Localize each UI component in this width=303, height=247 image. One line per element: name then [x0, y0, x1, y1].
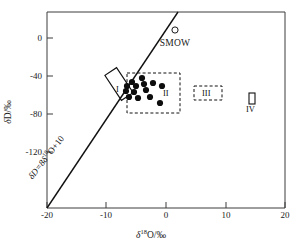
y-tick-label--80: -80 [18, 109, 42, 119]
x-axis-title-rest: O/‰ [147, 230, 166, 240]
isotope-scatter-figure: -20 -10 0 10 20 0 -40 -80 -120 δ18O/‰ δD… [0, 0, 303, 247]
x-tick-label--10: -10 [100, 210, 112, 220]
sample-points [123, 75, 165, 106]
y-axis-title-rest: D/‰ [3, 100, 13, 119]
y-tick-label--40: -40 [18, 71, 42, 81]
x-axis-ticks [47, 202, 285, 208]
region-label-I: I [116, 84, 119, 94]
x-tick-label-20: 20 [281, 210, 290, 220]
y-axis-title-delta: δ [3, 119, 13, 123]
y-axis-title: δD/‰ [3, 100, 13, 123]
x-tick-label-10: 10 [222, 210, 231, 220]
smow-marker [172, 27, 178, 33]
y-tick-label-0: 0 [18, 33, 42, 43]
meteoric-water-line [47, 12, 178, 208]
x-tick-label--20: -20 [41, 210, 53, 220]
region-IV-box [249, 93, 255, 104]
region-label-IV: IV [246, 104, 255, 114]
region-label-II: II [163, 88, 169, 98]
y-axis-ticks [47, 38, 53, 152]
x-tick-label-0: 0 [164, 210, 169, 220]
smow-label: SMOW [160, 38, 190, 48]
x-axis-title: δ18O/‰ [136, 228, 166, 240]
region-label-III: III [202, 88, 211, 98]
